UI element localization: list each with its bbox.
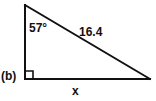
triangle-hypotenuse: [25, 5, 150, 79]
part-label: (b): [1, 70, 16, 82]
angle-measure-label: 57°: [29, 22, 47, 34]
right-angle-marker-icon: [25, 71, 33, 79]
base-length-label: x: [72, 85, 79, 97]
triangle-figure: (b) 57° 16.4 x: [0, 0, 156, 101]
hypotenuse-length-label: 16.4: [79, 26, 102, 38]
